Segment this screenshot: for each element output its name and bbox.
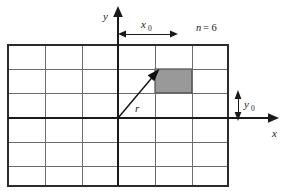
y0-label-base: y [243,98,249,110]
figure-root: y x r x 0 y 0 n = 6 [0,0,285,191]
n-value: = 6 [203,22,217,33]
y0-bottom-arrowhead [235,112,242,121]
y0-dimension [235,90,242,121]
x0-label: x 0 [140,18,152,33]
y0-label-subscript: 0 [251,104,255,113]
x-axis-arrowhead [268,113,279,123]
x0-label-subscript: 0 [148,24,152,33]
x0-right-arrowhead [170,31,178,38]
shaded-cell [155,69,192,93]
vector-r-label: r [135,102,140,114]
x0-label-base: x [140,18,146,30]
y0-top-arrowhead [235,90,242,99]
grid-diagram: y x r x 0 y 0 n = 6 [0,0,285,191]
n-equals-label: n = 6 [196,22,217,33]
y-axis-arrowhead [113,6,123,17]
n-symbol: n [196,22,201,33]
x0-left-arrowhead [118,31,126,38]
x-axis-label: x [271,127,277,139]
y0-label: y 0 [243,98,255,113]
y-axis-label: y [102,10,108,22]
